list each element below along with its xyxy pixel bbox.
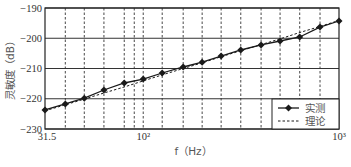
legend: 实测 理论 xyxy=(272,99,339,129)
x-tick-label: 31.5 xyxy=(38,131,56,142)
x-axis-label: f（Hz） xyxy=(174,145,211,157)
legend-measured-label: 实测 xyxy=(305,102,325,114)
y-axis-label: 灵敏度（dB） xyxy=(4,36,16,100)
legend-theory-label: 理论 xyxy=(305,115,326,127)
diamond-marker-icon xyxy=(336,18,343,25)
diamond-marker-icon xyxy=(42,106,49,113)
theory-line xyxy=(45,20,339,110)
diamond-marker-icon xyxy=(296,34,303,41)
y-tick-label: −190 xyxy=(20,3,42,14)
y-tick-label: −200 xyxy=(20,33,42,44)
diamond-marker-icon xyxy=(81,95,88,102)
sensitivity-chart: −190−200−210−220−230 31.510²10³ 灵敏度（dB） … xyxy=(0,0,351,167)
y-tick-label: −210 xyxy=(20,63,42,74)
x-axis-tick-labels: 31.510²10³ xyxy=(38,131,346,142)
diamond-marker-icon xyxy=(159,70,166,77)
x-tick-label: 10² xyxy=(136,131,150,142)
y-tick-label: −220 xyxy=(20,93,42,104)
y-axis-tick-labels: −190−200−210−220−230 xyxy=(20,3,42,135)
diamond-marker-icon xyxy=(121,80,128,87)
x-tick-label: 10³ xyxy=(332,131,346,142)
